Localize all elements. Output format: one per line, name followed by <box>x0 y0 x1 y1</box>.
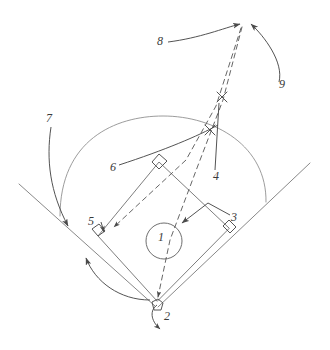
pitchers-mound <box>146 223 182 259</box>
callout-label-6: 6 <box>110 161 116 173</box>
callout-label-2: 2 <box>164 310 170 322</box>
foul-line-left <box>19 184 155 306</box>
callout-label-5: 5 <box>88 215 94 227</box>
callout-label-9: 9 <box>279 78 285 90</box>
callout-9-arrow <box>251 24 280 82</box>
dashed-path-apex-to-third <box>114 28 241 227</box>
callout-label-1: 1 <box>158 231 164 243</box>
callout-label-7: 7 <box>46 112 52 124</box>
callout-2-arrow-curl <box>152 305 160 329</box>
callout-2-arrow-left <box>86 258 150 300</box>
callout-label-4: 4 <box>213 170 219 182</box>
second-base <box>152 154 167 169</box>
callout-8-arrow <box>168 24 240 42</box>
baseball-field-sketch <box>0 0 330 350</box>
callout-label-8: 8 <box>157 35 163 47</box>
callout-7-arrow <box>49 127 68 226</box>
diagram-canvas: 1 2 3 4 5 6 7 8 9 <box>0 0 330 350</box>
callout-6-line <box>119 125 218 165</box>
dashed-path-apex-to-home <box>158 27 242 297</box>
callout-4-line <box>215 103 219 170</box>
callout-label-3: 3 <box>231 211 237 223</box>
